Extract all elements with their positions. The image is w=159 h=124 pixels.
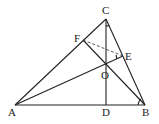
side-CA [15, 19, 106, 105]
side-BC [106, 19, 145, 105]
label-C: C [102, 4, 109, 16]
angle-mark-E [116, 55, 117, 59]
label-D: D [102, 106, 110, 118]
geometry-diagram: C F E O A D B [0, 0, 159, 124]
label-O: O [101, 69, 109, 81]
label-E: E [125, 50, 132, 62]
label-B: B [142, 106, 149, 118]
triangle-figure: C F E O A D B [0, 0, 159, 124]
segment-BF [83, 40, 145, 105]
label-F: F [74, 32, 80, 44]
angle-mark-B [138, 99, 141, 105]
label-A: A [8, 106, 16, 118]
